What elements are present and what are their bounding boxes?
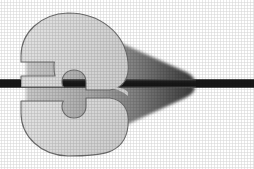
horizontal-rule-right-segment <box>196 80 254 87</box>
horizontal-rule-left-segment <box>0 80 21 87</box>
illustration-canvas <box>0 0 254 169</box>
figure-root: Numeral three with cast shadow and horiz… <box>0 0 254 169</box>
